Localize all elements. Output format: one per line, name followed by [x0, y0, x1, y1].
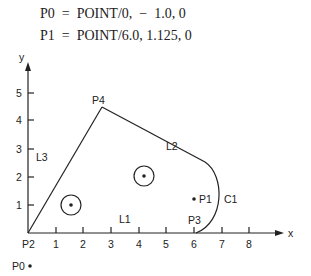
line-l2 [102, 107, 205, 162]
x-tick-label: 7 [219, 238, 225, 250]
x-tick-label: 5 [163, 238, 169, 250]
y-tick-label: 3 [16, 143, 22, 155]
x-tick-label: 1 [53, 238, 59, 250]
x-tick-label: 3 [108, 238, 114, 250]
x-tick-label: 4 [136, 238, 142, 250]
diagram-canvas: x y 1 2 3 4 5 6 7 8 1 2 3 4 5 P2 P4 L3 L… [0, 0, 311, 276]
label-l2: L2 [166, 140, 178, 152]
label-p4: P4 [92, 94, 105, 106]
x-tick-label: 8 [246, 238, 252, 250]
hole-center-dot-2 [142, 174, 146, 178]
hole-center-dot-1 [69, 203, 73, 207]
x-axis-label: x [288, 227, 294, 239]
label-p1: P1 [199, 193, 212, 205]
label-p3: P3 [188, 214, 201, 226]
y-axis-label: y [19, 51, 25, 63]
label-l3: L3 [36, 151, 48, 163]
x-axis-ticks [56, 227, 249, 233]
y-tick-label: 1 [16, 199, 22, 211]
label-c1: C1 [224, 193, 238, 205]
label-p0: P0 [12, 260, 25, 272]
label-p2: P2 [22, 238, 35, 250]
point-p0-dot [28, 264, 32, 268]
y-axis-ticks [28, 93, 34, 205]
point-p1-dot [192, 197, 196, 201]
x-axis-arrow-icon [275, 230, 284, 236]
y-tick-label: 2 [16, 171, 22, 183]
label-l1: L1 [119, 213, 131, 225]
y-tick-label: 4 [16, 114, 22, 126]
x-tick-label: 2 [80, 238, 86, 250]
y-tick-label: 5 [16, 87, 22, 99]
apt-geometry-diagram: P0 = POINT/0, − 1.0, 0 P1 = POINT/6.0, 1… [0, 0, 311, 276]
y-axis-arrow-icon [25, 62, 31, 71]
line-l3 [28, 107, 102, 233]
x-tick-label: 6 [191, 238, 197, 250]
